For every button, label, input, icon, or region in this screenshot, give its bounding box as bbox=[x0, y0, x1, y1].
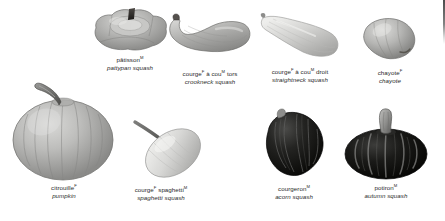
specimen-pumpkin: citrouilleF pumpkin bbox=[2, 78, 126, 200]
pumpkin-illustration bbox=[6, 78, 122, 182]
term-english: spaghetti squash bbox=[135, 194, 188, 202]
term-french: courgeF spaghettiM bbox=[135, 186, 188, 194]
specimen-acorn-squash: courgeronM acorn squash bbox=[248, 106, 340, 201]
specimen-straightneck-squash: courgeF à couM droit straightneck squash bbox=[250, 6, 350, 84]
term-french: courgeronM bbox=[275, 185, 313, 193]
term-english: straightneck squash bbox=[272, 76, 329, 84]
specimen-spaghetti-squash: courgeF spaghettiM spaghetti squash bbox=[112, 106, 210, 202]
term-french: citrouilleF bbox=[51, 184, 77, 192]
autumn-squash-illustration bbox=[340, 104, 432, 182]
straightneck-squash-illustration bbox=[257, 6, 343, 64]
term-english: pattypan squash bbox=[107, 64, 153, 72]
specimen-crookneck-squash: courgeF à couM tors crookneck squash bbox=[160, 10, 260, 86]
specimen-chayote: chayoteF chayote bbox=[351, 14, 429, 85]
spaghetti-squash-illustration bbox=[115, 106, 207, 184]
term-english: crookneck squash bbox=[183, 78, 238, 86]
caption-pumpkin: citrouilleF pumpkin bbox=[51, 184, 77, 200]
caption-pattypan-squash: pâtissonM pattypan squash bbox=[107, 56, 153, 72]
specimen-autumn-squash: potironM autumn squash bbox=[338, 104, 434, 200]
term-english: pumpkin bbox=[51, 192, 77, 200]
term-french: pâtissonM bbox=[107, 56, 153, 64]
term-french: potironM bbox=[365, 184, 408, 192]
term-english: acorn squash bbox=[275, 193, 313, 201]
term-english: autumn squash bbox=[365, 192, 408, 200]
caption-acorn-squash: courgeronM acorn squash bbox=[275, 185, 313, 201]
caption-straightneck-squash: courgeF à couM droit straightneck squash bbox=[272, 68, 329, 84]
term-french: courgeF à couM droit bbox=[272, 68, 329, 76]
caption-crookneck-squash: courgeF à couM tors crookneck squash bbox=[183, 70, 238, 86]
crookneck-squash-illustration bbox=[164, 10, 256, 64]
caption-autumn-squash: potironM autumn squash bbox=[365, 184, 408, 200]
chayote-illustration bbox=[354, 14, 426, 64]
term-french: chayoteF bbox=[378, 69, 403, 77]
caption-spaghetti-squash: courgeF spaghettiM spaghetti squash bbox=[135, 186, 188, 202]
term-english: chayote bbox=[378, 77, 403, 85]
illustration-plate: pâtissonM pattypan squash bbox=[0, 0, 445, 221]
caption-chayote: chayoteF chayote bbox=[378, 69, 403, 85]
acorn-squash-illustration bbox=[252, 106, 336, 182]
term-french: courgeF à couM tors bbox=[183, 70, 238, 78]
